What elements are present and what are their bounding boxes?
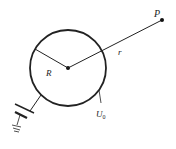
- distance-r-label: r: [118, 47, 122, 57]
- potential-U0-label: U0: [96, 109, 106, 120]
- distance-line: [68, 20, 162, 68]
- point-p-dot: [160, 18, 164, 22]
- radius-R-label: R: [45, 68, 52, 78]
- battery-short-plate: [15, 112, 27, 118]
- ground-symbol-line-1: [12, 125, 21, 127]
- battery-wire: [30, 95, 41, 111]
- point-p-label: P: [153, 8, 160, 19]
- ground-symbol-line-3: [14, 131, 19, 132]
- diagram-canvas: P r R U0: [0, 0, 176, 149]
- radius-line: [35, 49, 68, 68]
- ground-wire: [17, 115, 20, 125]
- potential-leader-line: [99, 90, 101, 103]
- ground-symbol-line-2: [13, 128, 20, 130]
